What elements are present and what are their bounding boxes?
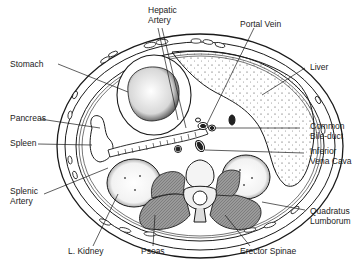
anatomy-diagram: HepaticArtery Portal Vein Stomach Liver … xyxy=(0,0,364,264)
right-posterior-muscle xyxy=(215,170,240,196)
label-stomach: Stomach xyxy=(10,60,44,70)
label-inferior-vena-cava: InferiorVena Cava xyxy=(310,147,352,166)
label-portal-vein: Portal Vein xyxy=(240,20,281,30)
stomach-lumen xyxy=(128,67,179,121)
label-l-kidney: L. Kidney xyxy=(68,247,103,257)
label-common-bile-duct: CommonBile-duct xyxy=(310,122,344,141)
right-erector-spinae-muscle xyxy=(210,194,261,230)
label-hepatic-artery: HepaticArtery xyxy=(148,6,177,25)
label-liver: Liver xyxy=(310,63,328,73)
label-spleen: Spleen xyxy=(10,139,36,149)
label-erector-spinae: Erector Spinae xyxy=(240,247,296,257)
label-psoas: Psoas xyxy=(141,247,165,257)
label-quadratus-lumborum: QuadratusLumborum xyxy=(310,207,351,226)
label-pancreas: Pancreas xyxy=(10,114,46,124)
label-splenic-artery: SplenicArtery xyxy=(10,187,38,206)
